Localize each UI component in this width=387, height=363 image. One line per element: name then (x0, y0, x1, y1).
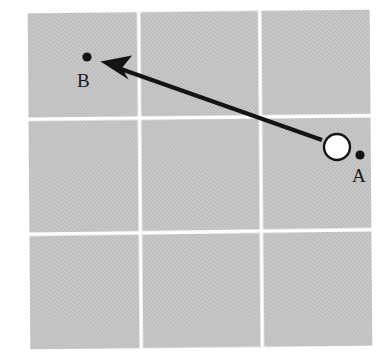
shaded-grid-plane (28, 10, 373, 350)
point-b-dot (82, 52, 91, 61)
point-b-label: B (77, 70, 90, 91)
figure-canvas: A B (0, 0, 387, 363)
plane-fill (28, 10, 373, 350)
open-circle-marker (324, 134, 350, 160)
figure-root: A B (0, 0, 387, 363)
point-a-label: A (352, 165, 366, 186)
point-a-dot (355, 150, 364, 159)
